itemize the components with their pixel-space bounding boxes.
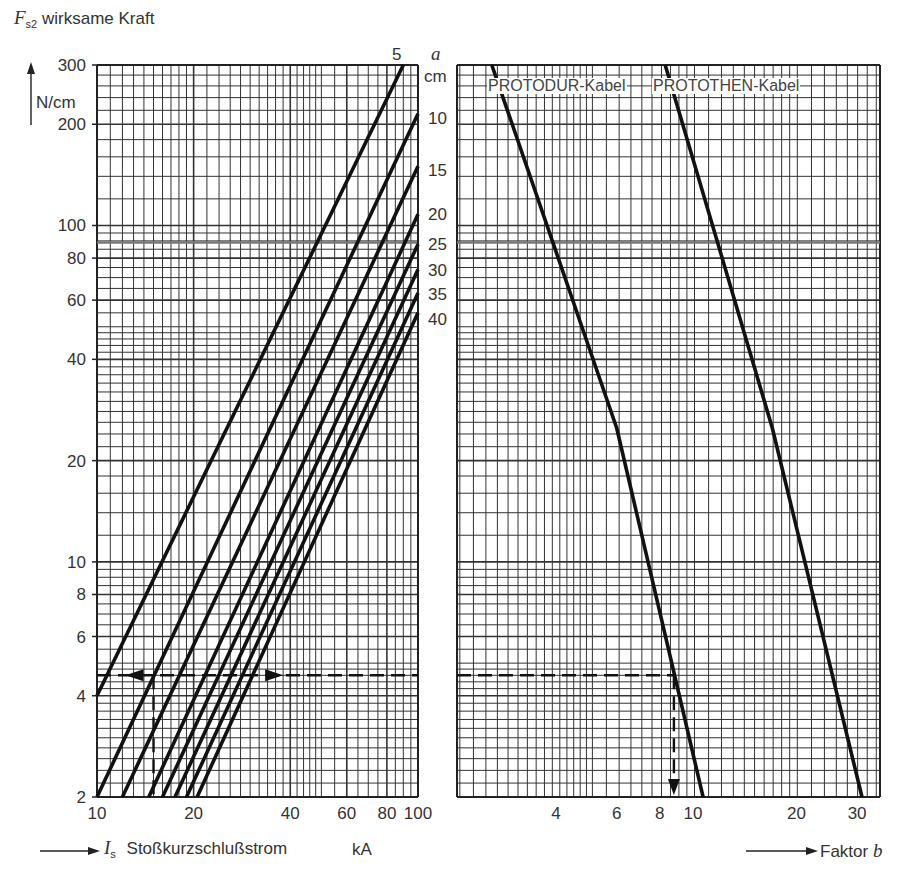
a-curve-label: 15 [428,162,447,179]
y-tick-label: 20 [40,453,86,470]
x2-axis-title: Faktor b [820,841,882,860]
curve-PROTODUR-Kabel [492,65,703,797]
a-curve-label: 5 [392,46,401,63]
x2-tick-label: 30 [848,805,867,822]
y-tick-label: 40 [40,351,86,368]
a-curve-label: 40 [428,311,447,328]
x-tick-label: 80 [377,805,396,822]
y-tick-label: 2 [40,789,86,806]
y-tick-label: 60 [40,292,86,309]
x-tick-label: 10 [88,805,107,822]
y-tick-label: 300 [40,57,86,74]
curve-a-30 [175,270,418,798]
y-tick-label: 80 [40,250,86,267]
curve-a-35 [187,293,419,797]
y-axis-unit: N/cm [36,94,76,111]
x-axis-title-text: Stoßkurzschlußstrom [127,839,288,858]
left-grid [97,65,418,797]
nomogram-chart [0,0,924,887]
a-curve-label: 20 [428,206,447,223]
x2-tick-label: 6 [612,805,621,822]
y-axis-title: Fs2 wirksame Kraft [14,8,154,30]
curves [97,65,862,797]
x2-tick-label: 20 [787,805,806,822]
x2-tick-label: 10 [684,805,703,822]
a-curve-label: 25 [428,236,447,253]
y-axis-title-text: wirksame Kraft [42,9,154,28]
y-tick-label: 10 [40,554,86,571]
x-tick-label: 100 [404,805,432,822]
right-grid [418,61,880,801]
curve-a-15 [122,166,418,797]
x2-tick-label: 8 [655,805,664,822]
x-tick-label: 40 [281,805,300,822]
a-curve-label: 35 [428,286,447,303]
a-symbol: a [431,44,441,63]
y-tick-label: 8 [40,586,86,603]
x-axis-unit: kA [352,841,372,858]
a-curve-label: 10 [428,110,447,127]
y-tick-label: 200 [40,116,86,133]
y-tick-label: 4 [40,688,86,705]
y-axis-symbol: F [14,7,26,28]
y-axis-subscript: s2 [26,18,38,30]
curve-a-10 [97,114,418,797]
a-unit: cm [424,68,447,85]
legend-protodur: PROTODUR-Kabel [487,78,627,94]
y-tick-label: 6 [40,629,86,646]
y-tick-label: 100 [40,217,86,234]
x-axis-title: Is Stoßkurzschlußstrom [104,838,287,860]
legend-protothen: PROTOTHEN-Kabel [652,78,800,94]
x-tick-label: 20 [184,805,203,822]
a-curve-label: 30 [428,262,447,279]
x-tick-label: 60 [337,805,356,822]
x2-tick-label: 4 [551,805,560,822]
